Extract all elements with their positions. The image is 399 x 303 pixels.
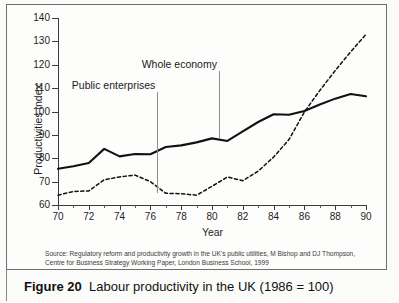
figure-page: Productivities index 6070809010011012013… [0,0,399,303]
figure-caption: Figure 20 Labour productivity in the UK … [24,279,384,295]
annotation-label-public-enterprises: Public enterprises [72,79,155,91]
annotation-pointer-0 [157,92,158,194]
figure-caption-text: Labour productivity in the UK (1986 = 10… [89,279,334,294]
source-note: Source: Regulatory reform and productivi… [45,249,365,267]
series-line-whole-economy [58,94,366,169]
annotation-label-whole-economy: Whole economy [142,58,217,70]
figure-number: Figure 20 [24,279,82,294]
annotation-pointer-1 [219,71,220,139]
